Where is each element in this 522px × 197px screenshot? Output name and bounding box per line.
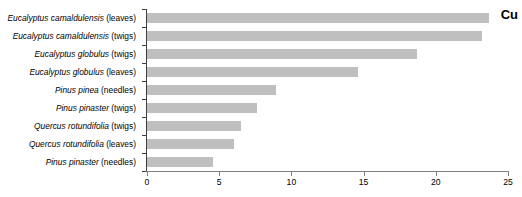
bar (147, 13, 489, 23)
x-axis-tick-label: 15 (349, 177, 379, 187)
species-name: Pinus pinaster (56, 103, 109, 113)
plant-part: (twigs) (109, 103, 136, 113)
species-name: Pinus pinaster (46, 157, 99, 167)
species-name: Eucalyptus camaldulensis (13, 31, 109, 41)
x-axis-tick-label: 0 (132, 177, 162, 187)
bar-row (147, 81, 508, 99)
category-axis: Eucalyptus camaldulensis (leaves)Eucalyp… (0, 9, 136, 171)
plant-part: (needles) (99, 157, 136, 167)
plant-part: (needles) (99, 85, 136, 95)
bar (147, 67, 358, 77)
category-label: Pinus pinaster (needles) (0, 153, 136, 171)
bar-row (147, 27, 508, 45)
plant-part: (twigs) (109, 31, 136, 41)
plant-part: (leaves) (104, 67, 136, 77)
x-axis-tick-label: 20 (421, 177, 451, 187)
species-name: Quercus rotundifolia (29, 139, 104, 149)
bar-row (147, 135, 508, 153)
category-label: Pinus pinea (needles) (0, 81, 136, 99)
y-axis-tick (142, 153, 146, 154)
bar (147, 121, 241, 131)
plant-part: (leaves) (104, 13, 136, 23)
category-label: Pinus pinaster (twigs) (0, 99, 136, 117)
plot-area (147, 9, 508, 171)
bar-row (147, 99, 508, 117)
x-axis-tick (219, 172, 220, 176)
category-label: Eucalyptus camaldulensis (twigs) (0, 27, 136, 45)
bar (147, 139, 234, 149)
bar-row (147, 45, 508, 63)
bar (147, 49, 417, 59)
bar (147, 85, 276, 95)
species-name: Eucalyptus globulus (29, 67, 104, 77)
x-axis-tick-label: 25 (493, 177, 522, 187)
cu-bar-chart: Cu Eucalyptus camaldulensis (leaves)Euca… (0, 0, 522, 197)
species-name: Eucalyptus camaldulensis (8, 13, 104, 23)
bar-row (147, 9, 508, 27)
bar-row (147, 153, 508, 171)
x-axis-tick-label: 5 (204, 177, 234, 187)
y-axis-tick (142, 45, 146, 46)
category-label: Eucalyptus globulus (twigs) (0, 45, 136, 63)
plant-part: (twigs) (109, 49, 136, 59)
bar-row (147, 117, 508, 135)
y-axis-tick (142, 27, 146, 28)
bar (147, 103, 257, 113)
x-axis-tick (508, 172, 509, 176)
bar-row (147, 63, 508, 81)
x-axis-tick (436, 172, 437, 176)
plant-part: (twigs) (109, 121, 136, 131)
species-name: Pinus pinea (55, 85, 99, 95)
x-axis-tick (147, 172, 148, 176)
y-axis-tick (142, 9, 146, 10)
x-axis-line (146, 171, 509, 172)
species-name: Eucalyptus globulus (35, 49, 110, 59)
plant-part: (leaves) (104, 139, 136, 149)
x-axis-tick (364, 172, 365, 176)
y-axis-tick (142, 117, 146, 118)
x-axis-tick (291, 172, 292, 176)
y-axis-tick (142, 99, 146, 100)
bar (147, 31, 482, 41)
category-label: Eucalyptus globulus (leaves) (0, 63, 136, 81)
y-axis-tick (142, 135, 146, 136)
y-axis-tick (142, 63, 146, 64)
species-name: Quercus rotundifolia (34, 121, 109, 131)
x-axis-tick-label: 10 (276, 177, 306, 187)
y-axis-tick (142, 81, 146, 82)
category-label: Eucalyptus camaldulensis (leaves) (0, 9, 136, 27)
bar (147, 157, 213, 167)
category-label: Quercus rotundifolia (twigs) (0, 117, 136, 135)
category-label: Quercus rotundifolia (leaves) (0, 135, 136, 153)
